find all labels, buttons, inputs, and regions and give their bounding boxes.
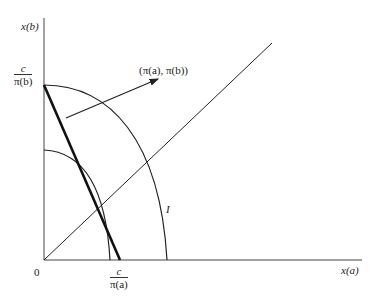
origin-label: 0 xyxy=(34,266,40,278)
y-intercept-label: c π(b) xyxy=(14,62,32,87)
x-intercept-denominator: π(a) xyxy=(110,278,128,290)
diagram-canvas xyxy=(0,0,376,297)
x-intercept-numerator: c xyxy=(110,265,128,278)
y-axis-label: x(b) xyxy=(21,20,39,32)
inner-curve xyxy=(44,150,110,260)
y-intercept-denominator: π(b) xyxy=(14,75,32,87)
x-axis-label: x(a) xyxy=(341,264,359,276)
y-intercept-numerator: c xyxy=(14,62,32,75)
outer-indifference-curve xyxy=(44,85,167,260)
x-intercept-label: c π(a) xyxy=(110,265,128,290)
price-vector-label: (π(a), π(b)) xyxy=(139,64,188,76)
price-vector-arrow xyxy=(66,79,158,118)
indifference-curve-label: I xyxy=(166,203,170,215)
